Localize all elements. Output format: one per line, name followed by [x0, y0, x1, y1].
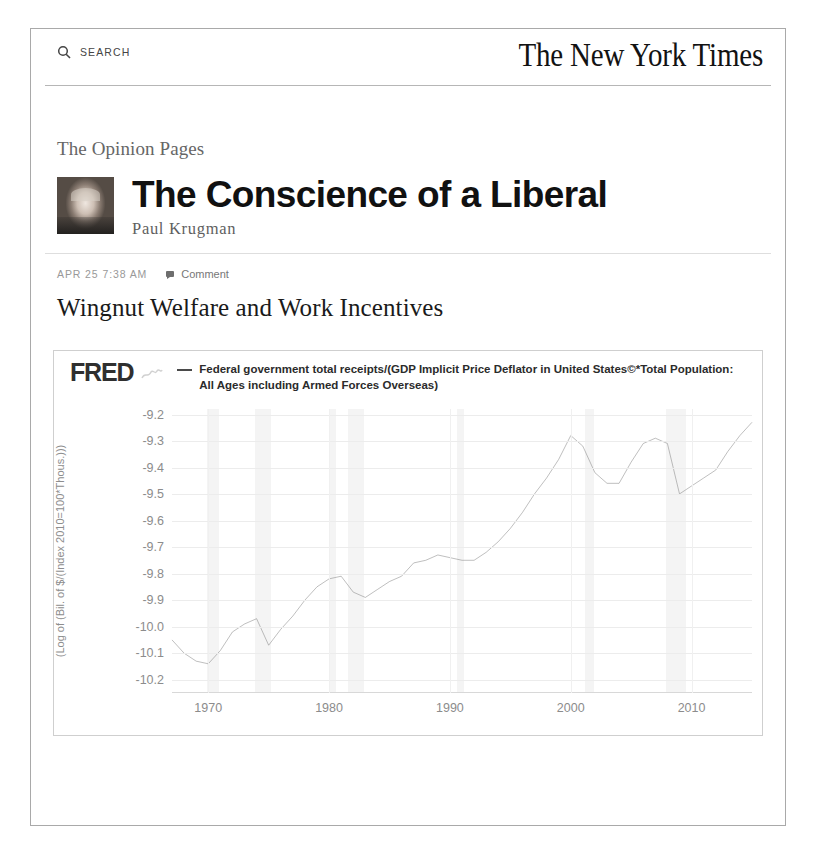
nyt-logo[interactable]: The New York Times [518, 36, 763, 74]
post-title[interactable]: Wingnut Welfare and Work Incentives [57, 294, 759, 322]
y-axis-tick: -9.9 [142, 593, 164, 607]
y-axis-tick: -9.6 [142, 514, 164, 528]
gridline-horizontal [172, 653, 752, 654]
legend-swatch [177, 369, 192, 371]
legend-label: Federal government total receipts/(GDP I… [199, 362, 739, 394]
gridline-vertical [208, 409, 209, 693]
y-axis-label-text: (Log of (Bil. of $/(Index 2010=100*Thous… [54, 445, 66, 657]
gridline-horizontal [172, 415, 752, 416]
y-axis-tick: -9.5 [142, 487, 164, 501]
ghost-nav-strip [31, 86, 785, 112]
post-container: APR 25 7:38 AM Comment Wingnut Welfare a… [31, 254, 785, 322]
gridline-vertical [692, 409, 693, 693]
section-kicker[interactable]: The Opinion Pages [57, 138, 759, 160]
x-axis-tick: 2000 [557, 701, 585, 715]
gridline-horizontal [172, 494, 752, 495]
comment-label: Comment [181, 268, 229, 280]
fred-chart-header: FRED Federal government total receipts/(… [54, 351, 762, 394]
x-axis-tick: 1980 [315, 701, 343, 715]
gridline-horizontal [172, 600, 752, 601]
blog-title-block: The Conscience of a Liberal Paul Krugman [132, 173, 607, 239]
post-timestamp: APR 25 7:38 AM [57, 268, 147, 280]
y-axis-tick: -9.8 [142, 567, 164, 581]
article-page-frame: SEARCH The New York Times The Opinion Pa… [30, 28, 786, 826]
blog-title[interactable]: The Conscience of a Liberal [132, 175, 607, 214]
gridline-horizontal [172, 680, 752, 681]
y-axis-tick: -9.3 [142, 434, 164, 448]
y-axis-tick: -10.1 [136, 646, 165, 660]
y-axis-tick: -9.4 [142, 461, 164, 475]
fred-squiggle-icon [141, 367, 163, 385]
x-axis-tick: 1990 [436, 701, 464, 715]
y-axis-tick: -10.0 [136, 620, 165, 634]
chart-legend: Federal government total receipts/(GDP I… [177, 362, 739, 394]
y-axis-label: (Log of (Bil. of $/(Index 2010=100*Thous… [52, 409, 68, 693]
fred-chart: FRED Federal government total receipts/(… [53, 350, 763, 736]
avatar [57, 177, 114, 234]
gridline-horizontal [172, 574, 752, 575]
y-axis-tick: -9.2 [142, 408, 164, 422]
x-axis-tick: 1970 [194, 701, 222, 715]
gridline-vertical [329, 409, 330, 693]
post-meta: APR 25 7:38 AM Comment [57, 254, 759, 280]
gridline-horizontal [172, 627, 752, 628]
x-axis-tick: 2010 [678, 701, 706, 715]
blog-header: The Opinion Pages The Conscience of a Li… [31, 112, 785, 253]
blog-author: Paul Krugman [132, 219, 607, 239]
site-masthead: SEARCH The New York Times [31, 29, 785, 85]
y-axis-tick: -9.7 [142, 540, 164, 554]
search-icon [57, 45, 71, 59]
gridline-vertical [571, 409, 572, 693]
plot-area: -9.2-9.3-9.4-9.5-9.6-9.7-9.8-9.9-10.0-10… [172, 409, 752, 693]
search-button[interactable]: SEARCH [57, 45, 130, 59]
fred-logo: FRED [70, 360, 133, 385]
comment-link[interactable]: Comment [166, 268, 229, 280]
gridline-horizontal [172, 521, 752, 522]
y-axis-tick: -10.2 [136, 673, 165, 687]
blog-title-row: The Conscience of a Liberal Paul Krugman [57, 173, 759, 239]
gridline-horizontal [172, 468, 752, 469]
comment-bubble-icon [166, 271, 174, 277]
series-line [172, 409, 752, 693]
search-label: SEARCH [80, 46, 130, 58]
gridline-vertical [450, 409, 451, 693]
gridline-horizontal [172, 547, 752, 548]
gridline-horizontal [172, 441, 752, 442]
